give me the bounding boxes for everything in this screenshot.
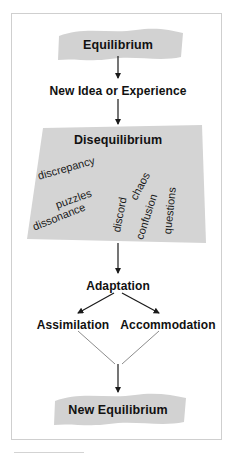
node-label-disequilibrium: Disequilibrium	[0, 133, 236, 147]
node-label-accommodation: Accommodation	[112, 318, 224, 332]
node-label-assimilation: Assimilation	[23, 318, 123, 332]
node-label-new-idea: New Idea or Experience	[0, 84, 236, 98]
node-label-equilibrium: Equilibrium	[0, 38, 236, 52]
bottom-rule	[14, 452, 84, 453]
node-label-new-equilibrium: New Equilibrium	[0, 403, 236, 417]
node-label-adaptation: Adaptation	[0, 279, 236, 293]
